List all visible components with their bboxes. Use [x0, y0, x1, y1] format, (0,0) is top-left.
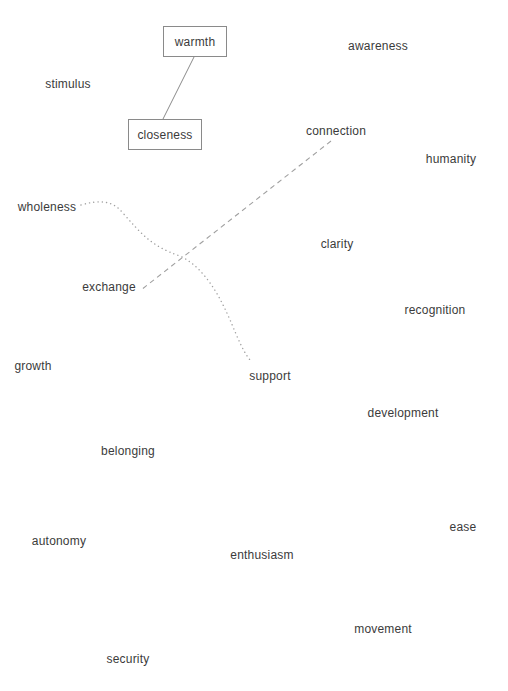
edge-connection-exchange [141, 141, 331, 290]
node-clarity[interactable]: clarity [321, 237, 354, 251]
node-recognition[interactable]: recognition [405, 303, 466, 317]
edges-layer [0, 0, 508, 691]
node-development[interactable]: development [368, 406, 439, 420]
node-enthusiasm[interactable]: enthusiasm [230, 548, 293, 562]
node-awareness[interactable]: awareness [348, 39, 408, 53]
node-wholeness[interactable]: wholeness [18, 200, 77, 214]
node-stimulus[interactable]: stimulus [45, 77, 91, 91]
node-warmth[interactable]: warmth [163, 26, 227, 57]
node-belonging[interactable]: belonging [101, 444, 155, 458]
edge-warmth-closeness [163, 57, 194, 119]
node-exchange[interactable]: exchange [82, 280, 136, 294]
node-support[interactable]: support [249, 369, 290, 383]
node-autonomy[interactable]: autonomy [32, 534, 86, 548]
node-closeness[interactable]: closeness [128, 119, 202, 150]
node-humanity[interactable]: humanity [426, 152, 476, 166]
node-label: closeness [137, 128, 192, 142]
node-ease[interactable]: ease [450, 520, 477, 534]
node-growth[interactable]: growth [14, 359, 51, 373]
node-movement[interactable]: movement [354, 622, 412, 636]
node-label: warmth [175, 35, 216, 49]
node-connection[interactable]: connection [306, 124, 366, 138]
node-security[interactable]: security [107, 652, 150, 666]
word-map-canvas: warmth closeness awareness stimulus conn… [0, 0, 508, 691]
